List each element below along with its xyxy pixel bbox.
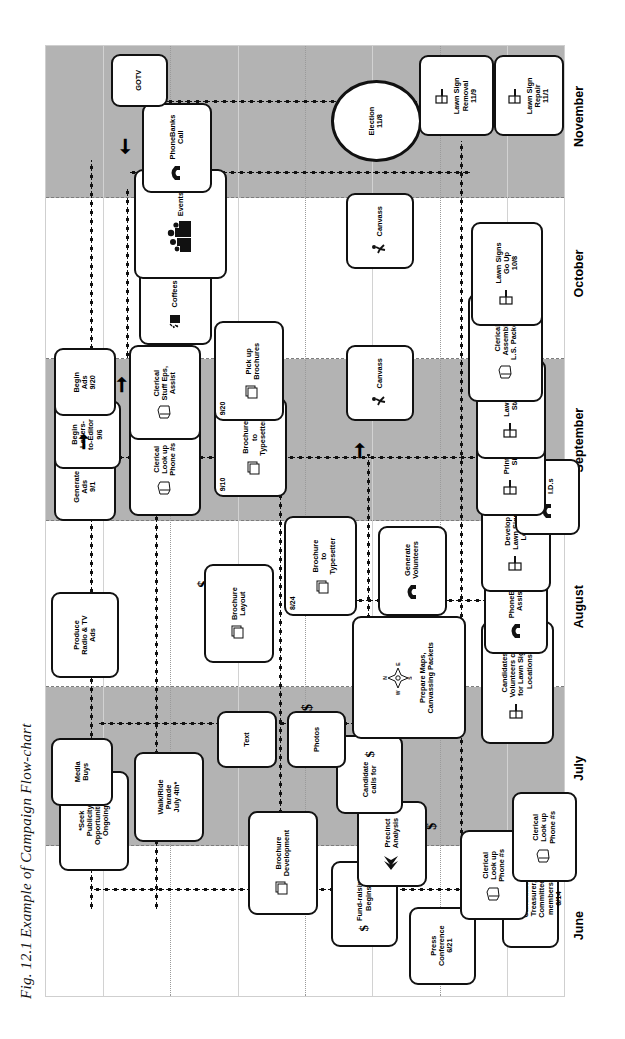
node-gotv[interactable]: GOTV xyxy=(111,54,168,107)
node-label: Canvass xyxy=(376,358,384,388)
pages-icon xyxy=(247,460,263,476)
node-produce-radio-tv[interactable]: Produce Radio & TV Ads xyxy=(51,592,118,678)
lawnsign-icon xyxy=(507,554,525,572)
svg-text:E: E xyxy=(395,661,401,665)
node-canvass-sept[interactable]: Canvass xyxy=(346,345,413,421)
node-generate-volunteers[interactable]: Generate Volunteers xyxy=(378,526,448,616)
node-label: Election 11/8 xyxy=(368,107,384,136)
node-precinct-analysis[interactable]: Precinct Analysis xyxy=(357,801,427,887)
dollar-marker: $ xyxy=(300,704,316,711)
folder-icon xyxy=(157,405,173,420)
pages-icon xyxy=(316,579,332,595)
coffee-icon xyxy=(166,311,184,329)
svg-text:N: N xyxy=(382,676,388,680)
dollar-icon: $ xyxy=(363,751,377,758)
node-label: Media Buys xyxy=(74,761,90,782)
arrow-head-canvass-sept: ➞ xyxy=(349,442,369,459)
svg-text:S: S xyxy=(407,675,412,679)
node-clerical-stuff-eps[interactable]: Clerical Stuff Eps, Assist xyxy=(129,345,202,440)
node-label: Lawn Sign Removal 11/9 xyxy=(453,77,477,114)
row-guide xyxy=(238,46,239,996)
node-label: Press Conference 6/21 xyxy=(430,925,454,966)
node-media-buys[interactable]: Media Buys xyxy=(51,738,113,806)
row-guide xyxy=(440,46,441,996)
folder-icon xyxy=(157,480,173,495)
month-label-october: October xyxy=(572,250,586,298)
phone-icon xyxy=(169,164,184,182)
figure-page: Fig. 12.1 Example of Campaign Flow-chart… xyxy=(0,0,625,1039)
node-date: 8/24 xyxy=(289,596,297,610)
connector-events-to-election xyxy=(126,189,129,360)
connector-lawnsign-chain xyxy=(460,141,463,863)
lawnsign-icon xyxy=(508,87,524,105)
lawnsign-icon xyxy=(498,288,516,306)
node-label: Generate Volunteers xyxy=(404,541,420,579)
node-begin-ads[interactable]: Begin Ads 9/20 xyxy=(54,348,116,416)
month-label-november: November xyxy=(572,86,586,147)
node-clerical-look-up-phone-2[interactable]: Clerical Look up Phone #s xyxy=(512,792,577,882)
node-label: Brochure to Typesetter xyxy=(242,419,266,456)
connector-ads-chain xyxy=(155,474,158,911)
node-label: GOTV xyxy=(135,70,143,91)
node-label: Produce Radio & TV Ads xyxy=(73,615,97,654)
walker-icon xyxy=(371,240,389,256)
node-label: Walk/Ride Parade July 4th* xyxy=(157,779,181,814)
phone-icon xyxy=(509,622,524,640)
lawnsign-icon xyxy=(435,87,451,105)
compass-icon: N S W E xyxy=(382,661,414,695)
node-label: Clerical Stuff Eps, Assist xyxy=(153,366,177,401)
node-canvass-oct[interactable]: Canvass xyxy=(346,193,413,269)
node-pick-up-brochures[interactable]: 9/20 Pick up Brochures xyxy=(214,322,284,422)
dollar-icon: $ xyxy=(357,925,371,932)
node-date: 9/10 xyxy=(219,478,227,492)
walker-icon xyxy=(371,392,389,408)
node-label: Coffees xyxy=(171,280,179,307)
folder-icon xyxy=(486,886,502,901)
node-lawn-signs-go-up[interactable]: Lawn Signs Go Up 10/8 xyxy=(471,222,544,327)
crowd-icon xyxy=(167,220,195,256)
svg-text:W: W xyxy=(395,690,401,695)
node-label: Clerical Look up Phone #s xyxy=(482,849,506,882)
node-brochure-development[interactable]: Brochure Development xyxy=(248,811,318,916)
node-lawn-sign-repair[interactable]: Lawn Sign Repair 11/1 xyxy=(494,56,564,137)
node-election[interactable]: Election 11/8 xyxy=(331,80,422,162)
node-label: Prepare Maps, Canvassing Packets xyxy=(419,642,435,713)
node-label: Events xyxy=(177,192,185,216)
node-label: Clerical Look up Phone #s xyxy=(532,811,556,844)
arrow-head-events: ➞ xyxy=(111,376,131,393)
phone-icon xyxy=(405,583,420,601)
pages-icon xyxy=(231,624,247,640)
arrow-head-gotv: ➞ xyxy=(116,138,136,155)
lawnsign-icon xyxy=(502,421,520,439)
node-brochure-layout[interactable]: Brochure Layout xyxy=(204,564,274,664)
node-label: Brochure Development xyxy=(275,830,291,876)
month-label-july: July xyxy=(572,756,586,781)
node-photos[interactable]: Photos xyxy=(287,711,347,768)
node-phonebanks-call[interactable]: PhoneBanks Call xyxy=(142,103,212,193)
flowchart-plot-area: ➞ ➞ ➞ ➞ $ $ $ $ $ Kickoff & Strategy Mee… xyxy=(45,45,565,997)
node-label: Candidate calls for xyxy=(362,762,378,798)
node-label: Lawn Signs Go Up 10/8 xyxy=(495,242,519,283)
node-label: Begin Ads 9/20 xyxy=(73,372,97,393)
node-lawn-sign-removal[interactable]: Lawn Sign Removal 11/9 xyxy=(419,56,494,137)
node-walk-ride-parade[interactable]: Walk/Ride Parade July 4th* xyxy=(134,752,204,842)
node-label: Brochure Layout xyxy=(231,587,247,620)
node-label: Lawn Sign Repair 11/1 xyxy=(526,77,550,114)
node-date: 9/20 xyxy=(219,402,227,416)
node-candidate-calls[interactable]: Candidate calls for $ xyxy=(336,735,403,814)
figure-caption: Fig. 12.1 Example of Campaign Flow-chart xyxy=(18,723,35,999)
node-prepare-maps[interactable]: N S W E Prepare Maps, Canvassing Packets xyxy=(352,616,466,740)
node-brochure-to-typesetter-824[interactable]: 8/24 Brochure to Typesetter xyxy=(284,516,357,616)
node-label: Brochure to Typesetter xyxy=(312,538,336,575)
folder-icon xyxy=(536,848,552,863)
node-label: PhoneBanks Call xyxy=(169,115,185,160)
pages-icon xyxy=(275,880,291,896)
connector-literature-chain xyxy=(279,445,282,825)
month-label-june: June xyxy=(572,911,586,940)
folder-icon xyxy=(498,364,514,379)
node-label: Generate Ads 9/1 xyxy=(73,471,97,503)
node-text[interactable]: Text xyxy=(217,711,277,768)
node-label: Canvass xyxy=(376,206,384,236)
lawnsign-icon xyxy=(508,702,526,720)
node-label: Precinct Analysis xyxy=(384,818,400,848)
